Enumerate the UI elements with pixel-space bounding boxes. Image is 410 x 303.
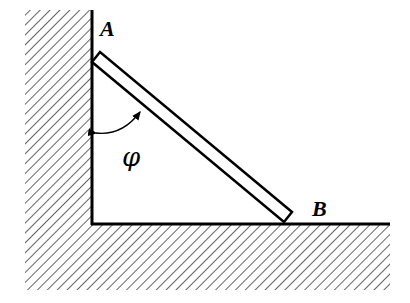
wall-hatching <box>25 10 92 290</box>
floor-hatching <box>92 224 390 290</box>
angle-arc <box>96 112 140 133</box>
rod <box>92 52 292 222</box>
label-phi: φ <box>122 142 141 172</box>
label-b: B <box>311 196 327 221</box>
rod-wall-diagram: A B φ <box>0 0 410 303</box>
label-a: A <box>98 16 115 41</box>
